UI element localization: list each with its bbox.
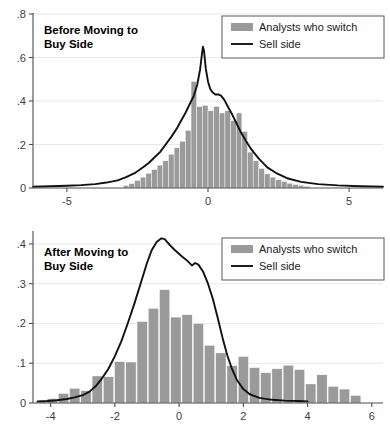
panel-title: After Moving toBuy Side	[44, 246, 128, 272]
y-axis-ticks: 0.2.4.6.8	[17, 8, 33, 194]
histogram-bar	[115, 362, 125, 403]
histogram-bar	[197, 106, 203, 188]
x-tick-label: -4	[46, 410, 56, 422]
histogram-bar	[328, 386, 338, 403]
panel-title-line1: After Moving to	[44, 246, 128, 258]
chart-legend[interactable]: Analysts who switchSell side	[222, 238, 384, 280]
histogram-bar	[160, 290, 170, 403]
histogram-bar	[306, 384, 316, 403]
histogram-bar	[129, 184, 135, 188]
histogram-bar	[171, 317, 181, 403]
y-axis-ticks: 0.1.2.3.4	[17, 238, 33, 409]
panel-title-line1: Before Moving to	[44, 24, 138, 36]
legend-label: Sell side	[259, 38, 301, 50]
histogram-bar	[231, 121, 237, 188]
histogram-bar	[185, 130, 191, 188]
y-tick-label: .4	[17, 95, 26, 107]
histogram-bar	[281, 181, 287, 188]
y-tick-label: .8	[17, 8, 26, 20]
histogram-bar	[182, 315, 192, 403]
histogram-bar	[264, 174, 270, 188]
figure-container: 0.2.4.6.8-505Before Moving toBuy SideAna…	[0, 0, 390, 432]
histogram-bar	[225, 111, 231, 188]
histogram-bar	[238, 356, 248, 403]
chart-svg-after: 0.1.2.3.4-4-20246After Moving toBuy Side…	[0, 216, 390, 432]
histogram-bar	[276, 180, 282, 188]
y-tick-label: .2	[17, 139, 26, 151]
histogram-bar	[208, 111, 214, 188]
histogram-bars	[36, 290, 361, 403]
panel-title-line2: Buy Side	[44, 38, 93, 50]
legend-label: Analysts who switch	[259, 243, 357, 255]
legend-swatch-bar	[231, 23, 253, 31]
histogram-bar	[283, 365, 293, 403]
histogram-bar	[163, 161, 169, 188]
legend-label: Sell side	[259, 260, 301, 272]
histogram-bar	[193, 323, 203, 403]
histogram-bar	[287, 183, 293, 188]
histogram-bar	[152, 170, 158, 188]
histogram-bar	[174, 148, 180, 188]
histogram-bar	[148, 308, 158, 403]
histogram-bar	[137, 321, 147, 403]
y-tick-label: 0	[20, 397, 26, 409]
histogram-bar	[135, 180, 141, 188]
x-tick-label: 5	[346, 195, 352, 207]
x-tick-label: -2	[110, 410, 120, 422]
x-tick-label: 6	[369, 410, 375, 422]
chart-panel-before: 0.2.4.6.8-505Before Moving toBuy SideAna…	[0, 0, 390, 216]
x-tick-label: 0	[205, 195, 211, 207]
y-tick-label: .6	[17, 52, 26, 64]
histogram-bar	[253, 161, 259, 188]
histogram-bar	[103, 377, 113, 403]
histogram-bar	[259, 168, 265, 188]
histogram-bar	[180, 141, 186, 188]
histogram-bar	[351, 395, 361, 403]
x-tick-label: 0	[176, 410, 182, 422]
panel-title: Before Moving toBuy Side	[44, 24, 138, 50]
legend-swatch-bar	[231, 245, 253, 253]
histogram-bar	[126, 362, 136, 403]
x-axis-ticks: -505	[62, 188, 352, 207]
histogram-bar	[317, 375, 327, 403]
histogram-bar	[272, 369, 282, 403]
histogram-bar	[157, 165, 163, 188]
y-tick-label: 0	[20, 182, 26, 194]
histogram-bar	[216, 353, 226, 403]
x-tick-label: 2	[240, 410, 246, 422]
chart-panel-after: 0.1.2.3.4-4-20246After Moving toBuy Side…	[0, 216, 390, 432]
x-axis-ticks: -4-20246	[46, 403, 375, 422]
x-tick-label: -5	[62, 195, 72, 207]
histogram-bar	[168, 154, 174, 188]
y-tick-label: .1	[17, 357, 26, 369]
legend-label: Analysts who switch	[259, 21, 357, 33]
histogram-bar	[294, 370, 304, 403]
histogram-bar	[214, 106, 220, 188]
chart-legend[interactable]: Analysts who switchSell side	[222, 16, 384, 58]
y-tick-label: .2	[17, 317, 26, 329]
histogram-bar	[146, 173, 152, 188]
y-tick-label: .4	[17, 238, 26, 250]
histogram-bar	[219, 113, 225, 188]
panel-title-line2: Buy Side	[44, 260, 93, 272]
chart-svg-before: 0.2.4.6.8-505Before Moving toBuy SideAna…	[0, 0, 390, 216]
histogram-bar	[339, 389, 349, 403]
y-tick-label: .3	[17, 278, 26, 290]
histogram-bar	[140, 177, 146, 188]
histogram-bar	[202, 105, 208, 188]
histogram-bar	[204, 345, 214, 403]
x-tick-label: 4	[304, 410, 310, 422]
histogram-bar	[248, 152, 254, 188]
histogram-bars	[123, 81, 309, 188]
histogram-bar	[270, 177, 276, 188]
